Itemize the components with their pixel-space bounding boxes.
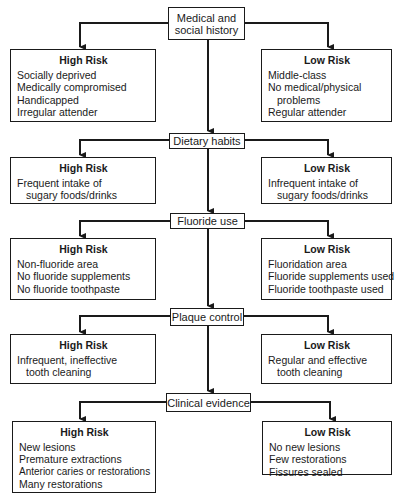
risk-item: No fluoride supplements bbox=[17, 270, 150, 282]
risk-item: Infrequent intake of bbox=[268, 177, 386, 189]
low-risk-title: Low Risk bbox=[268, 162, 386, 174]
high-risk-box-plaque: High Risk Infrequent, ineffective tooth … bbox=[10, 334, 156, 384]
risk-item: Fluoride supplements used bbox=[268, 270, 386, 282]
high-risk-title: High Risk bbox=[17, 243, 150, 255]
low-risk-box-medical-social: Low Risk Middle-class No medical/physica… bbox=[261, 49, 392, 122]
low-risk-box-dietary: Low Risk Infrequent intake of sugary foo… bbox=[261, 157, 392, 204]
high-risk-box-medical-social: High Risk Socially deprived Medically co… bbox=[10, 49, 156, 122]
risk-item: Many restorations bbox=[19, 478, 150, 490]
risk-item: sugary foods/drinks bbox=[17, 189, 150, 201]
risk-item: Fluoride toothpaste used bbox=[268, 283, 386, 295]
low-risk-title: Low Risk bbox=[268, 339, 386, 351]
stage-label: Fluoride use bbox=[177, 215, 238, 227]
stage-node-medical-social-history: Medical and social history bbox=[168, 7, 245, 40]
risk-item: Handicapped bbox=[17, 94, 150, 106]
risk-item: Irregular attender bbox=[17, 106, 150, 118]
risk-item: Middle-class bbox=[268, 69, 386, 81]
stage-label-line: Medical and bbox=[177, 12, 236, 24]
risk-item: Frequent intake of bbox=[17, 177, 150, 189]
risk-item: Medically compromised bbox=[17, 81, 150, 93]
low-risk-title: Low Risk bbox=[269, 426, 386, 438]
stage-label: Clinical evidence bbox=[167, 397, 250, 409]
risk-item: Non-fluoride area bbox=[17, 258, 150, 270]
high-risk-title: High Risk bbox=[17, 339, 150, 351]
risk-item: tooth cleaning bbox=[268, 366, 386, 378]
stage-label: Dietary habits bbox=[173, 135, 240, 147]
stage-node-dietary-habits: Dietary habits bbox=[169, 133, 245, 149]
risk-item: problems bbox=[268, 94, 386, 106]
risk-item: Anterior caries or restorations bbox=[19, 466, 150, 478]
stage-node-plaque-control: Plaque control bbox=[170, 308, 244, 326]
risk-item: Premature extractions bbox=[19, 453, 150, 465]
risk-item: tooth cleaning bbox=[17, 366, 150, 378]
high-risk-title: High Risk bbox=[19, 426, 150, 438]
risk-item: Regular and effective bbox=[268, 354, 386, 366]
risk-item: Infrequent, ineffective bbox=[17, 354, 150, 366]
stage-label-line: social history bbox=[175, 24, 239, 36]
low-risk-title: Low Risk bbox=[268, 243, 386, 255]
stage-label: Plaque control bbox=[172, 311, 242, 323]
high-risk-box-fluoride: High Risk Non-fluoride area No fluoride … bbox=[10, 238, 156, 300]
risk-item: Socially deprived bbox=[17, 69, 150, 81]
high-risk-title: High Risk bbox=[17, 54, 150, 66]
risk-item: No new lesions bbox=[269, 441, 386, 453]
high-risk-box-clinical: High Risk New lesions Premature extracti… bbox=[12, 421, 156, 493]
risk-item: sugary foods/drinks bbox=[268, 189, 386, 201]
low-risk-box-fluoride: Low Risk Fluoridation area Fluoride supp… bbox=[261, 238, 392, 300]
risk-item: New lesions bbox=[19, 441, 150, 453]
risk-item: Regular attender bbox=[268, 106, 386, 118]
high-risk-box-dietary: High Risk Frequent intake of sugary food… bbox=[10, 157, 156, 204]
risk-item: No medical/physical bbox=[268, 81, 386, 93]
low-risk-box-plaque: Low Risk Regular and effective tooth cle… bbox=[261, 334, 392, 384]
low-risk-box-clinical: Low Risk No new lesions Few restorations… bbox=[262, 421, 392, 475]
risk-item: No fluoride toothpaste bbox=[17, 283, 150, 295]
stage-node-clinical-evidence: Clinical evidence bbox=[166, 393, 251, 412]
low-risk-title: Low Risk bbox=[268, 54, 386, 66]
risk-item: Few restorations bbox=[269, 453, 386, 465]
risk-item: Fluoridation area bbox=[268, 258, 386, 270]
risk-item: Fissures sealed bbox=[269, 466, 386, 478]
high-risk-title: High Risk bbox=[17, 162, 150, 174]
stage-node-fluoride-use: Fluoride use bbox=[170, 213, 245, 229]
